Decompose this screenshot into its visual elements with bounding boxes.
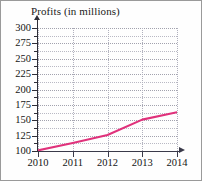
y-axis-arrow-icon (34, 15, 40, 20)
x-label-2010: 2010 (21, 157, 55, 168)
x-label-2014: 2014 (160, 157, 194, 168)
y-label-text: 150 (3, 114, 31, 125)
y-label-text: 300 (3, 22, 31, 33)
y-label-text: 250 (3, 53, 31, 64)
x-label-2011: 2011 (56, 157, 90, 168)
y-label-text: 125 (3, 130, 31, 141)
chart-title: Profits (in millions) (31, 5, 120, 17)
chart-frame: Profits (in millions) (0, 0, 202, 181)
x-label-2012: 2012 (91, 157, 125, 168)
y-label-text: 225 (3, 68, 31, 79)
x-axis-arrow-icon (179, 147, 185, 153)
x-label-2013: 2013 (125, 157, 159, 168)
y-label-text: 275 (3, 37, 31, 48)
y-label-text: 175 (3, 99, 31, 110)
data-series-line (38, 28, 177, 151)
y-label-text: 200 (3, 84, 31, 95)
x-axis-line (37, 151, 180, 152)
gridline-2014 (177, 28, 178, 151)
y-label-text: 100 (3, 145, 31, 156)
